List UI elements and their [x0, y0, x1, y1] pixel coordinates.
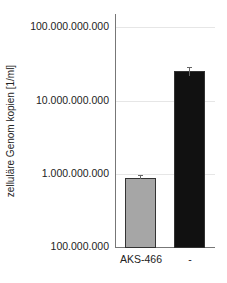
y-axis [115, 14, 116, 248]
gridline [116, 27, 215, 28]
error-bar-cap [187, 67, 192, 68]
y-tick-label: 1.000.000.000 [42, 167, 109, 179]
bar-control [174, 71, 205, 248]
error-bar [189, 67, 190, 76]
y-tick-label: 100.000.000.000 [30, 20, 109, 32]
error-bar-cap [138, 175, 143, 176]
y-axis-title: zelluläre Genom kopien [1/ml] [5, 41, 19, 221]
bar-aks-466 [125, 178, 156, 248]
x-tick-label: AKS-466 [118, 253, 164, 265]
y-tick-label: 10.000.000.000 [36, 94, 109, 106]
y-tick-label: 100.000.000 [51, 240, 109, 252]
x-tick-label: - [180, 253, 200, 265]
